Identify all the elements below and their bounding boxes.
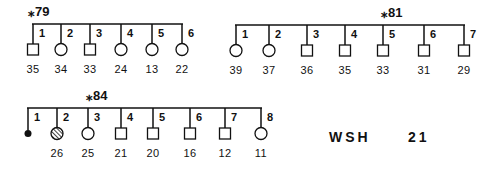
member-number: 1: [39, 27, 45, 39]
member-age: 36: [300, 64, 313, 76]
pedigree-member: 435: [338, 25, 358, 76]
member-number: 4: [351, 28, 358, 40]
female-circle-icon: [146, 44, 158, 56]
member-age: 33: [83, 63, 96, 75]
member-age: 13: [145, 63, 158, 75]
pedigree-canvas: ⁎79135234333424513622⁎811392373364355336…: [0, 0, 498, 169]
member-number: 2: [63, 111, 69, 123]
pedigree-member: 729: [457, 25, 476, 76]
member-age: 31: [417, 64, 430, 76]
male-square-icon: [148, 128, 159, 139]
pedigree-member: 513: [145, 24, 164, 75]
male-square-icon: [185, 128, 196, 139]
member-number: 5: [158, 27, 164, 39]
pedigree-member: 616: [183, 108, 202, 159]
pedigree-member: 1: [25, 108, 41, 137]
female-circle-icon: [82, 128, 94, 140]
male-square-icon: [419, 45, 430, 56]
female-circle-icon: [176, 44, 188, 56]
male-square-icon: [116, 128, 127, 139]
pedigree-member: 421: [114, 108, 134, 159]
pedigree-member: 811: [255, 108, 273, 159]
family-id-number: 21: [408, 129, 430, 145]
member-number: 7: [470, 28, 476, 40]
member-number: 6: [430, 28, 436, 40]
member-age: 11: [255, 147, 267, 159]
pedigree-member: 336: [300, 25, 319, 76]
pedigree-0: ⁎79135234333424513622: [26, 4, 194, 75]
male-square-icon: [378, 45, 389, 56]
member-number: 1: [34, 111, 40, 123]
pedigree-2: ⁎841226325421520616712811: [25, 88, 274, 159]
pedigree-label: ⁎81: [381, 5, 402, 20]
pedigree-member: 333: [83, 24, 102, 75]
member-number: 5: [389, 28, 395, 40]
member-number: 5: [159, 111, 165, 123]
female-circle-icon: [230, 45, 242, 57]
pedigree-member: 135: [26, 24, 45, 75]
male-square-icon: [302, 45, 313, 56]
member-age: 20: [146, 147, 159, 159]
member-age: 21: [114, 147, 127, 159]
hatched-female-circle-icon: [51, 128, 63, 140]
pedigree-member: 622: [175, 24, 194, 75]
member-age: 25: [81, 147, 94, 159]
male-square-icon: [220, 128, 231, 139]
pedigree-member: 237: [262, 25, 281, 76]
member-age: 34: [54, 63, 67, 75]
member-age: 37: [262, 64, 275, 76]
pedigree-1: ⁎81139237336435533631729: [229, 5, 476, 76]
member-age: 26: [50, 147, 63, 159]
female-circle-icon: [255, 128, 267, 140]
member-number: 8: [267, 111, 273, 123]
member-age: 33: [376, 64, 389, 76]
male-square-icon: [459, 45, 470, 56]
deceased-dot-icon: [25, 130, 32, 137]
member-age: 35: [26, 63, 39, 75]
pedigree-member: 226: [50, 108, 69, 159]
male-square-icon: [28, 44, 39, 55]
female-circle-icon: [263, 45, 275, 57]
member-number: 1: [242, 28, 248, 40]
pedigree-member: 234: [54, 24, 73, 75]
member-age: 35: [338, 64, 351, 76]
member-number: 2: [275, 28, 281, 40]
female-circle-icon: [55, 44, 67, 56]
pedigree-label: ⁎79: [28, 4, 49, 19]
pedigree-member: 631: [417, 25, 436, 76]
member-number: 2: [67, 27, 73, 39]
pedigree-member: 139: [229, 25, 248, 76]
pedigree-member: 712: [218, 108, 237, 159]
member-age: 22: [175, 63, 188, 75]
pedigree-member: 520: [146, 108, 165, 159]
pedigree-member: 533: [376, 25, 395, 76]
male-square-icon: [85, 44, 96, 55]
member-age: 29: [457, 64, 470, 76]
member-age: 16: [183, 147, 196, 159]
member-number: 4: [127, 111, 134, 123]
member-age: 39: [229, 64, 242, 76]
member-number: 3: [313, 28, 319, 40]
member-number: 6: [188, 27, 194, 39]
member-age: 12: [218, 147, 231, 159]
member-number: 4: [127, 27, 134, 39]
member-age: 24: [114, 63, 127, 75]
member-number: 7: [231, 111, 237, 123]
member-number: 3: [96, 27, 102, 39]
pedigree-member: 424: [114, 24, 134, 75]
male-square-icon: [340, 45, 351, 56]
member-number: 3: [94, 111, 100, 123]
pedigree-label: ⁎84: [86, 88, 108, 103]
female-circle-icon: [115, 44, 127, 56]
pedigree-member: 325: [81, 108, 100, 159]
family-id-text: WSH: [329, 129, 371, 145]
member-number: 6: [196, 111, 202, 123]
